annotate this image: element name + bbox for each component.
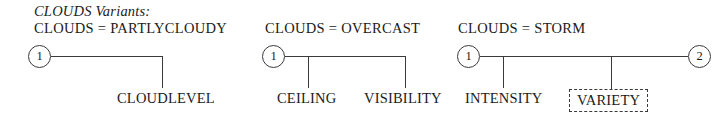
variant-lhs-overcast: CLOUDS — [265, 20, 325, 36]
variant-header-overcast: CLOUDS=OVERCAST — [265, 20, 420, 37]
state-circle-start-overcast: 1 — [262, 45, 285, 68]
variant-header-storm: CLOUDS=STORM — [458, 20, 586, 37]
variant-rhs-partlycloudy: PARTLYCLOUDY — [110, 20, 227, 36]
connector-branch-cloudlevel — [162, 56, 163, 88]
connector-branch-ceiling — [308, 56, 309, 88]
variant-operator-storm: = — [518, 20, 534, 36]
clouds-variants-figure: CLOUDS Variants: CLOUDS=PARTLYCLOUDY 1 C… — [0, 0, 728, 123]
figure-title: CLOUDS Variants: — [34, 3, 150, 20]
variant-header-partlycloudy: CLOUDS=PARTLYCLOUDY — [34, 20, 227, 37]
state-circle-end-storm: 2 — [688, 45, 711, 68]
variant-operator-overcast: = — [325, 20, 341, 36]
variant-lhs-partlycloudy: CLOUDS — [34, 20, 94, 36]
leaf-label-intensity: INTENSITY — [465, 90, 543, 107]
leaf-label-ceiling: CEILING — [277, 90, 336, 107]
connector-spine-partlycloudy — [51, 56, 162, 57]
leaf-label-variety: VARIETY — [569, 89, 648, 112]
state-circle-start-partlycloudy: 1 — [28, 45, 51, 68]
variant-rhs-storm: STORM — [534, 20, 585, 36]
variant-rhs-overcast: OVERCAST — [341, 20, 420, 36]
state-circle-start-storm: 1 — [457, 45, 480, 68]
variant-operator-partlycloudy: = — [94, 20, 110, 36]
leaf-label-visibility: VISIBILITY — [364, 90, 442, 107]
variant-lhs-storm: CLOUDS — [458, 20, 518, 36]
connector-spine-storm — [480, 56, 688, 57]
connector-spine-overcast — [285, 56, 406, 57]
leaf-label-cloudlevel: CLOUDLEVEL — [117, 90, 215, 107]
connector-branch-visibility — [405, 56, 406, 88]
connector-branch-variety — [611, 56, 612, 89]
connector-branch-intensity — [503, 56, 504, 88]
